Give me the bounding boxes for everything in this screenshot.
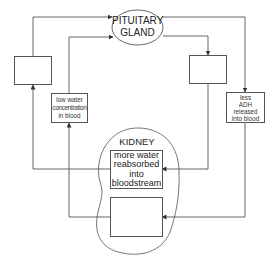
pituitary-label-line2: GLAND — [112, 27, 163, 39]
more-water-line4: bloodstream — [112, 179, 162, 189]
low-water-line3: in blood — [58, 112, 80, 120]
low-water-concentration-box[interactable]: low water concentration in blood — [51, 93, 88, 123]
less-adh-box[interactable]: less ADH released into blood — [226, 92, 265, 123]
pituitary-label-line1: PITUITARY — [112, 15, 163, 27]
pituitary-gland-node: PITUITARY GLAND — [112, 15, 163, 39]
less-adh-line4: into blood — [232, 115, 259, 122]
kidney-blank-box[interactable] — [110, 197, 163, 237]
kidney-label: KIDNEY — [112, 136, 162, 147]
less-adh-line1: less — [240, 94, 251, 101]
low-water-line2: concentration — [53, 104, 87, 112]
left-blank-box[interactable] — [14, 56, 52, 85]
right-blank-box[interactable] — [189, 55, 227, 84]
more-water-reabsorbed-box[interactable]: more water reabsorbed into bloodstream — [110, 150, 163, 189]
low-water-line1: low water — [56, 96, 83, 104]
less-adh-line2: ADH — [239, 101, 252, 108]
less-adh-line3: released — [233, 108, 257, 115]
